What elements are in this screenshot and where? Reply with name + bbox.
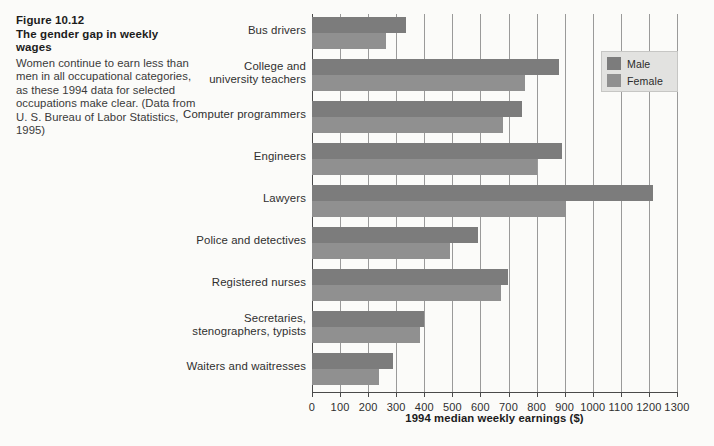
tick-mark-900 [565, 392, 566, 397]
bar-male [312, 143, 562, 159]
bar-female [312, 33, 386, 49]
figure-container: Figure 10.12 The gender gap in weekly wa… [0, 0, 714, 446]
tick-mark-100 [340, 392, 341, 397]
category-label: Police and detectives [196, 234, 306, 247]
bar-male [312, 17, 406, 33]
figure-caption-body: Women continue to earn less than men in … [16, 57, 196, 139]
tick-mark-500 [452, 392, 453, 397]
tick-mark-200 [368, 392, 369, 397]
legend-label-male: Male [627, 58, 650, 70]
tick-mark-400 [424, 392, 425, 397]
bar-female [312, 75, 525, 91]
bar-male [312, 269, 508, 285]
tick-mark-1300 [677, 392, 678, 397]
bar-male [312, 59, 559, 75]
category-label: Bus drivers [248, 24, 306, 37]
figure-title: The gender gap in weekly wages [16, 28, 196, 55]
bar-female [312, 327, 420, 343]
tick-mark-700 [509, 392, 510, 397]
tick-mark-1100 [621, 392, 622, 397]
bar-male [312, 101, 522, 117]
legend-swatch-female-icon [607, 74, 621, 87]
bar-female [312, 159, 537, 175]
x-axis-line [312, 392, 677, 393]
category-label: Registered nurses [212, 276, 306, 289]
x-axis-title: 1994 median weekly earnings ($) [312, 412, 677, 424]
gridline-1000 [593, 14, 594, 392]
bar-male [312, 185, 653, 201]
bar-male [312, 227, 478, 243]
bar-female [312, 117, 503, 133]
tick-mark-600 [480, 392, 481, 397]
bar-male [312, 353, 393, 369]
chart-legend: Male Female [601, 51, 678, 92]
legend-item-male: Male [607, 56, 672, 71]
tick-mark-1200 [649, 392, 650, 397]
legend-label-female: Female [627, 75, 663, 87]
figure-caption: Figure 10.12 The gender gap in weekly wa… [16, 14, 196, 138]
legend-swatch-male-icon [607, 57, 621, 70]
legend-item-female: Female [607, 73, 672, 88]
tick-mark-1000 [593, 392, 594, 397]
category-label: Computer programmers [183, 108, 306, 121]
bar-female [312, 285, 501, 301]
category-label: Lawyers [263, 192, 306, 205]
bar-male [312, 311, 424, 327]
bar-female [312, 243, 450, 259]
category-label: Engineers [254, 150, 306, 163]
bar-female [312, 201, 566, 217]
tick-mark-0 [312, 392, 313, 397]
tick-mark-300 [396, 392, 397, 397]
tick-mark-800 [537, 392, 538, 397]
category-label: Waiters and waitresses [186, 360, 306, 373]
bar-female [312, 369, 379, 385]
category-label: Secretaries, stenographers, typists [192, 312, 306, 339]
figure-number: Figure 10.12 [16, 14, 196, 28]
category-label: College and university teachers [209, 60, 306, 87]
